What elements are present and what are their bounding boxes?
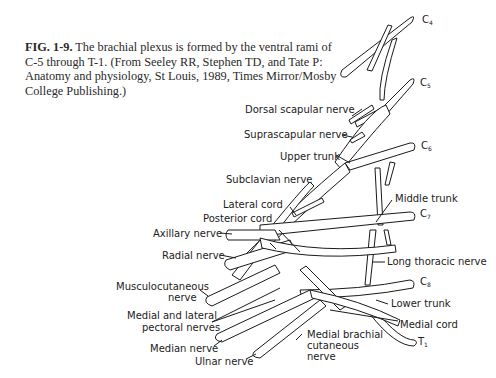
label-middle-trunk: Middle trunk [395,193,458,204]
label-medial-brachial-line1: Medial brachial [307,329,383,340]
label-subclavian-nerve: Subclavian nerve [226,174,312,185]
label-musculocutaneous-line2: nerve [168,292,197,303]
label-radial-nerve: Radial nerve [162,250,225,261]
label-suprascapular-nerve: Suprascapular nerve [244,129,348,140]
axillary-nerve [226,230,280,240]
label-axillary-nerve: Axillary nerve [153,228,222,239]
root-label-c6: C6 [421,140,432,152]
root-label-c5: C5 [420,77,431,89]
label-long-thoracic-nerve: Long thoracic nerve [387,256,487,267]
label-dorsal-scapular-nerve: Dorsal scapular nerve [245,104,355,115]
label-medial-brachial-line3: nerve [307,351,336,362]
label-upper-trunk: Upper trunk [280,151,340,162]
root-label-c8: C8 [420,276,431,288]
root-label-c4: C4 [422,14,433,26]
brachial-plexus-diagram: C4 C5 C6 C7 C8 T1 Dorsal scapular nerve … [0,0,496,378]
root-label-t1: T1 [417,336,428,348]
label-musculocutaneous-line1: Musculocutaneous [116,281,209,292]
label-median-nerve: Median nerve [150,343,218,354]
label-medial-cord: Medial cord [400,319,458,330]
label-pectoral-line1: Medial and lateral [127,310,217,321]
label-medial-brachial-line2: cutaneous [307,340,359,351]
label-lateral-cord: Lateral cord [223,199,283,210]
root-label-c7: C7 [420,208,431,220]
label-ulnar-nerve: Ulnar nerve [195,356,254,367]
label-lower-trunk: Lower trunk [391,298,451,309]
label-posterior-cord: Posterior cord [203,213,272,224]
label-pectoral-line2: pectoral nerves [142,322,220,333]
